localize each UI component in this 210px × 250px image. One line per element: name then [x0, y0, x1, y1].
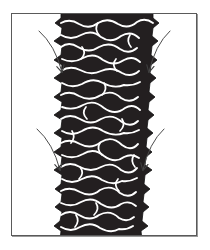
- arrow-lower-left: [37, 129, 60, 170]
- tire-tread-illustration: [12, 14, 196, 235]
- tread-body: [54, 14, 159, 235]
- tread-band: [54, 14, 159, 235]
- figure-container: Tire tread pattern detail: [0, 0, 210, 250]
- arrow-upper-left: [39, 31, 62, 72]
- figure-frame: [11, 13, 197, 236]
